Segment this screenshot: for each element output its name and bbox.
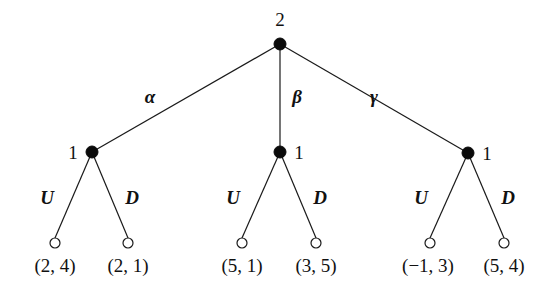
payoff-label: (5, 4) [483, 255, 524, 277]
edge-U [430, 153, 468, 238]
decision-node-icon [462, 147, 474, 159]
action-label: D [312, 187, 327, 208]
player-label: 1 [482, 143, 492, 164]
edge-D [468, 153, 504, 238]
payoff-label: (2, 1) [107, 255, 148, 277]
terminal-node-icon [499, 238, 509, 248]
edge-α [92, 44, 280, 152]
edge-U [55, 152, 92, 238]
payoff-label: (5, 1) [221, 255, 262, 277]
root-decision-node-icon [274, 38, 286, 50]
payoff-label: (3, 5) [295, 255, 336, 277]
terminal-node-icon [123, 238, 133, 248]
decision-node-icon [274, 146, 286, 158]
action-label: D [124, 187, 139, 208]
action-label: D [500, 187, 515, 208]
action-label: U [414, 187, 429, 208]
action-label: β [291, 86, 302, 107]
action-label: γ [370, 86, 378, 107]
action-label: U [226, 187, 241, 208]
terminal-node-icon [311, 238, 321, 248]
decision-node-icon [86, 146, 98, 158]
terminal-node-icon [425, 238, 435, 248]
edge-U [242, 152, 280, 238]
player-label: 1 [68, 142, 78, 163]
payoff-label: (2, 4) [34, 255, 75, 277]
player-label: 1 [294, 142, 304, 163]
root-player-label: 2 [275, 9, 285, 30]
game-tree-diagram: 2α1U(2, 4)D(2, 1)β1U(5, 1)D(3, 5)γ1U(−1,… [0, 0, 553, 294]
terminal-node-icon [237, 238, 247, 248]
payoff-label: (−1, 3) [402, 255, 454, 277]
action-label: α [145, 86, 156, 107]
action-label: U [40, 187, 55, 208]
edge-D [92, 152, 128, 238]
terminal-node-icon [50, 238, 60, 248]
game-tree-svg: 2α1U(2, 4)D(2, 1)β1U(5, 1)D(3, 5)γ1U(−1,… [0, 0, 553, 294]
edge-D [280, 152, 316, 238]
edges-layer [55, 44, 504, 238]
